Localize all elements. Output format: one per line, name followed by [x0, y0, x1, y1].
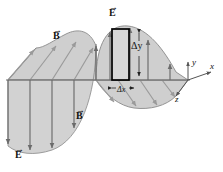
z-axis-label: z [175, 95, 179, 104]
b-vector-label-middle: → B [76, 108, 85, 121]
faraday-rectangle [112, 29, 129, 80]
em-wave-diagram [0, 0, 223, 172]
x-axis-label: x [210, 62, 214, 71]
e-vector-label-top: → E [109, 5, 118, 18]
y-axis-label: y [192, 58, 196, 67]
e-vector-label-bottom: → E [15, 147, 24, 160]
delta-y-label: Δy [131, 41, 142, 51]
b-vector-label-top: → B [53, 28, 62, 41]
delta-x-label: Δx [117, 86, 125, 94]
b-field-sheet-first-half [8, 31, 96, 80]
e-vector-label-text: E [15, 149, 22, 160]
em-wave-figure: → B → B → E → E Δy Δx y x z [0, 0, 223, 172]
e-vector-label-text: E [109, 7, 116, 18]
x-axis [188, 72, 211, 80]
b-vector-label-text: B [53, 30, 60, 41]
b-vector-label-text: B [76, 110, 83, 121]
